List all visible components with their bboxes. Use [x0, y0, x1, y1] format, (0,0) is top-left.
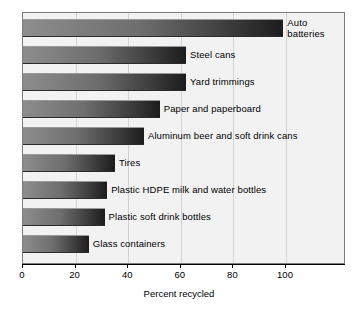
bar-label: Glass containers	[93, 239, 165, 250]
bar-label-line: Yard trimmings	[190, 77, 255, 88]
bar	[23, 100, 160, 118]
bar	[23, 208, 105, 226]
bar-label: Aluminum beer and soft drink cans	[148, 131, 298, 142]
plot-area: AutobatteriesSteel cansYard trimmingsPap…	[22, 12, 345, 264]
bar-label: Paper and paperboard	[164, 104, 261, 115]
x-tick-40	[127, 264, 128, 268]
bar-label-line: Tires	[119, 158, 140, 169]
x-tick-label-100: 100	[277, 269, 293, 280]
bar	[23, 46, 186, 64]
bar-label: Autobatteries	[287, 18, 324, 39]
x-tick-0	[22, 264, 23, 268]
x-tick-label-80: 80	[227, 269, 238, 280]
bar-label: Plastic HDPE milk and water bottles	[111, 185, 266, 196]
x-axis-line	[22, 264, 345, 265]
bar	[23, 127, 144, 145]
bar-row: Plastic soft drink bottles	[23, 208, 344, 226]
x-tick-80	[232, 264, 233, 268]
x-tick-20	[75, 264, 76, 268]
bar	[23, 19, 283, 37]
bar-row: Paper and paperboard	[23, 100, 344, 118]
x-tick-label-20: 20	[69, 269, 80, 280]
recycling-bar-chart: AutobatteriesSteel cansYard trimmingsPap…	[0, 0, 358, 309]
bar	[23, 235, 89, 253]
bar	[23, 154, 115, 172]
bar-row: Autobatteries	[23, 19, 344, 37]
bar-row: Plastic HDPE milk and water bottles	[23, 181, 344, 199]
bar	[23, 181, 107, 199]
x-axis-title: Percent recycled	[0, 288, 358, 299]
bar-label-line: Plastic soft drink bottles	[109, 212, 211, 223]
bar-row: Yard trimmings	[23, 73, 344, 91]
bar-label-line: batteries	[287, 29, 324, 40]
x-tick-label-0: 0	[19, 269, 24, 280]
bar-label-line: Steel cans	[190, 50, 235, 61]
bar-label: Steel cans	[190, 50, 235, 61]
bar-label-line: Aluminum beer and soft drink cans	[148, 131, 298, 142]
x-tick-label-60: 60	[175, 269, 186, 280]
bar-label-line: Paper and paperboard	[164, 104, 261, 115]
bar	[23, 73, 186, 91]
bar-label-line: Auto	[287, 18, 324, 29]
x-tick-60	[180, 264, 181, 268]
bar-label: Tires	[119, 158, 140, 169]
bar-row: Aluminum beer and soft drink cans	[23, 127, 344, 145]
bar-label-line: Glass containers	[93, 239, 165, 250]
bar-label: Plastic soft drink bottles	[109, 212, 211, 223]
x-tick-100	[285, 264, 286, 268]
bar-label-line: Plastic HDPE milk and water bottles	[111, 185, 266, 196]
bar-row: Tires	[23, 154, 344, 172]
bar-label: Yard trimmings	[190, 77, 255, 88]
bar-row: Glass containers	[23, 235, 344, 253]
x-tick-label-40: 40	[122, 269, 133, 280]
bar-row: Steel cans	[23, 46, 344, 64]
